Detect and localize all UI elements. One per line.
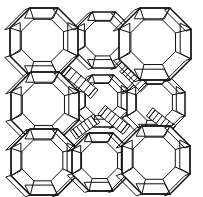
zeolite-figure (0, 0, 203, 197)
zeolite-framework-svg (0, 0, 203, 197)
